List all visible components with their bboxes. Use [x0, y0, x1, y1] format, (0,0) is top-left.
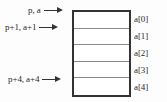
array-index-label-2: a[2]	[134, 48, 148, 58]
pointer-label-p: p, a	[28, 5, 41, 15]
array-cell	[74, 29, 129, 46]
array-box	[72, 10, 131, 97]
array-cell	[74, 78, 129, 95]
array-pointer-diagram: a[0] a[1] a[2] a[3] a[4] p, a p+1, a+1 p…	[0, 0, 167, 102]
pointer-label-p1: p+1, a+1	[5, 22, 36, 32]
pointer-annotation-p4: p+4, a+4	[8, 74, 62, 84]
arrow-right-icon	[39, 24, 59, 31]
arrow-right-icon	[44, 7, 64, 14]
array-cell	[74, 62, 129, 79]
array-index-label-3: a[3]	[134, 65, 148, 75]
array-cell	[74, 12, 129, 29]
arrow-right-icon	[42, 76, 62, 83]
pointer-annotation-p: p, a	[28, 5, 64, 15]
pointer-label-p4: p+4, a+4	[8, 74, 39, 84]
array-index-label-0: a[0]	[134, 14, 148, 24]
array-index-label-4: a[4]	[134, 82, 148, 92]
array-cell	[74, 45, 129, 62]
pointer-annotation-p1: p+1, a+1	[5, 22, 59, 32]
array-index-label-1: a[1]	[134, 31, 148, 41]
